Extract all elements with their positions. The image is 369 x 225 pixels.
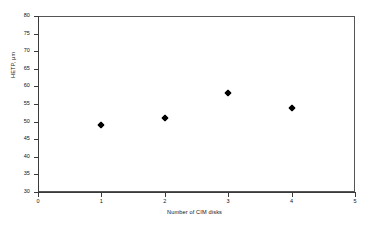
- y-tick-mark: [34, 157, 38, 158]
- y-tick-mark: [34, 139, 38, 140]
- x-tick-mark: [38, 193, 39, 197]
- x-tick-label: 1: [94, 199, 108, 205]
- y-tick-label: 50: [24, 119, 30, 125]
- y-tick-label: 75: [24, 31, 30, 37]
- x-tick-mark: [228, 193, 229, 197]
- y-axis-line: [38, 16, 39, 193]
- x-tick-label: 3: [221, 199, 235, 205]
- x-tick-mark: [101, 193, 102, 197]
- x-tick-label: 0: [31, 199, 45, 205]
- y-tick-label: 35: [24, 171, 30, 177]
- y-tick-label: 65: [24, 66, 30, 72]
- y-tick-mark: [34, 16, 38, 17]
- y-tick-label: 55: [24, 101, 30, 107]
- x-tick-label: 2: [158, 199, 172, 205]
- y-tick-label: 40: [24, 154, 30, 160]
- y-tick-mark: [34, 69, 38, 70]
- x-tick-mark: [292, 193, 293, 197]
- y-tick-mark: [34, 86, 38, 87]
- x-axis-line: [38, 192, 356, 193]
- y-tick-label: 60: [24, 83, 30, 89]
- y-tick-label: 80: [24, 13, 30, 19]
- x-tick-mark: [165, 193, 166, 197]
- y-axis-title: HETP, µm: [10, 18, 16, 78]
- x-tick-label: 4: [285, 199, 299, 205]
- y-tick-mark: [34, 174, 38, 175]
- y-tick-mark: [34, 51, 38, 52]
- y-tick-mark: [34, 122, 38, 123]
- plot-area: [38, 16, 355, 192]
- y-tick-label: 70: [24, 48, 30, 54]
- x-tick-label: 5: [348, 199, 362, 205]
- y-tick-mark: [34, 104, 38, 105]
- y-tick-label: 30: [24, 189, 30, 195]
- y-tick-mark: [34, 34, 38, 35]
- chart-container: 3035404550556065707580 012345 HETP, µm N…: [0, 0, 369, 225]
- x-tick-mark: [355, 193, 356, 197]
- y-tick-label: 45: [24, 136, 30, 142]
- x-axis-title: Number of CIM disks: [0, 209, 369, 215]
